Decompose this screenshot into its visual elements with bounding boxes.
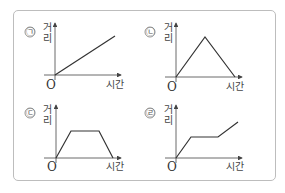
y-axis-label-2: 리	[164, 33, 173, 44]
x-axis-label: 시간	[106, 161, 124, 172]
data-line	[56, 131, 113, 158]
y-axis-label-1: 거	[164, 104, 173, 115]
origin-label: O	[167, 80, 177, 94]
y-axis-label-2: 리	[43, 33, 52, 44]
y-axis-label-2: 리	[43, 115, 52, 126]
graph-4: ㉣ 거 리 O 시간	[145, 104, 244, 174]
x-axis-label: 시간	[106, 79, 124, 90]
graph-3: ㉢ 거 리 O 시간	[25, 104, 124, 174]
data-line	[176, 122, 238, 158]
origin-label: O	[167, 160, 177, 174]
y-axis-label-1: 거	[164, 22, 173, 33]
graph-marker: ㉠	[26, 27, 35, 37]
x-axis-label: 시간	[226, 161, 244, 172]
origin-label: O	[46, 78, 56, 92]
graph-1: ㉠ 거 리 O 시간	[25, 22, 124, 92]
x-axis-label: 시간	[226, 81, 244, 92]
origin-label: O	[47, 160, 57, 174]
graph-marker: ㉣	[146, 108, 155, 118]
y-axis-label-1: 거	[43, 22, 52, 33]
graph-marker: ㉢	[26, 108, 35, 118]
graph-2: ㉡ 거 리 O 시간	[145, 22, 244, 94]
y-axis-label-2: 리	[164, 115, 173, 126]
data-line	[55, 36, 115, 75]
data-line	[176, 37, 235, 77]
distance-time-graphs: ㉠ 거 리 O 시간 ㉡ 거 리 O 시간 ㉢ 거 리 O 시간 ㉣ 거 리	[0, 0, 285, 193]
graph-marker: ㉡	[146, 27, 155, 37]
y-axis-label-1: 거	[43, 104, 52, 115]
